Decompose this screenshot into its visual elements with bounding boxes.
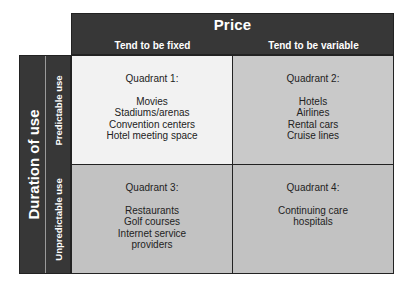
quadrant-item: Rental cars (233, 119, 393, 131)
row-label-predictable: Predictable use (53, 75, 64, 145)
column-label-fixed: Tend to be fixed (72, 40, 233, 51)
quadrant-3: Quadrant 3: Restaurants Golf courses Int… (72, 165, 233, 273)
quadrant-item: Golf courses (72, 216, 232, 228)
quadrant-1: Quadrant 1: Movies Stadiums/arenas Conve… (72, 56, 233, 165)
quadrant-title: Quadrant 4: (233, 182, 393, 194)
duration-title-wrap: Duration of use (20, 56, 45, 273)
quadrant-item: Continuing care (233, 205, 393, 217)
row-label-predictable-wrap: Predictable use (46, 56, 71, 165)
quadrant-grid: Quadrant 1: Movies Stadiums/arenas Conve… (71, 55, 394, 274)
quadrant-4: Quadrant 4: Continuing care hospitals (233, 165, 393, 273)
quadrant-2: Quadrant 2: Hotels Airlines Rental cars … (233, 56, 393, 165)
quadrant-item: Internet service (72, 228, 232, 240)
duration-header: Duration of use Predictable use Unpredic… (19, 55, 71, 274)
quadrant-item: providers (72, 239, 232, 251)
quadrant-title: Quadrant 3: (72, 182, 232, 194)
quadrant-item: Stadiums/arenas (72, 107, 232, 119)
quadrant-item: Convention centers (72, 119, 232, 131)
price-header: Price Tend to be fixed Tend to be variab… (71, 13, 394, 55)
row-label-unpredictable-wrap: Unpredictable use (46, 165, 71, 274)
quadrant-item: Cruise lines (233, 130, 393, 142)
quadrant-item: hospitals (233, 216, 393, 228)
row-label-unpredictable: Unpredictable use (53, 178, 64, 260)
quadrant-item: Airlines (233, 107, 393, 119)
quadrant-item: Restaurants (72, 205, 232, 217)
price-title: Price (72, 16, 393, 33)
price-duration-matrix: Price Tend to be fixed Tend to be variab… (0, 0, 406, 288)
quadrant-title: Quadrant 1: (72, 73, 232, 85)
quadrant-item: Hotel meeting space (72, 130, 232, 142)
column-label-variable: Tend to be variable (233, 40, 394, 51)
quadrant-item: Movies (72, 96, 232, 108)
quadrant-item: Hotels (233, 96, 393, 108)
duration-title: Duration of use (24, 109, 41, 219)
quadrant-title: Quadrant 2: (233, 73, 393, 85)
